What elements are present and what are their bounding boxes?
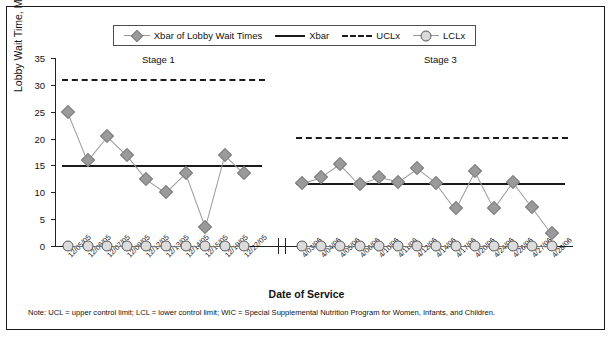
- lcl-point-marker: [450, 241, 461, 252]
- legend-label: LCLx: [443, 30, 465, 41]
- solid-line-icon: [275, 35, 305, 37]
- y-axis-title: Lobby Wait Time, Min: [12, 0, 24, 92]
- legend-label: Xbar of Lobby Wait Times: [154, 30, 262, 41]
- y-tick: [51, 58, 55, 59]
- circle-line-icon: [413, 35, 439, 36]
- y-tick-label: 25: [23, 106, 45, 117]
- lcl-point-marker: [508, 241, 519, 252]
- diamond-line-icon: [124, 35, 150, 36]
- legend-label: UCLx: [376, 30, 400, 41]
- legend-label: Xbar: [309, 30, 329, 41]
- lcl-point-marker: [180, 241, 191, 252]
- y-tick: [51, 219, 55, 220]
- stage3-ucl-line: [296, 137, 568, 139]
- lcl-point-marker: [219, 241, 230, 252]
- lcl-point-marker: [82, 241, 93, 252]
- legend-item-uclx: UCLx: [342, 30, 400, 41]
- dashed-line-icon: [342, 35, 372, 37]
- lcl-point-marker: [121, 241, 132, 252]
- y-tick-label: 20: [23, 133, 45, 144]
- lcl-point-marker: [102, 241, 113, 252]
- chart-page: Xbar of Lobby Wait Times Xbar UCLx LCLx …: [0, 0, 613, 338]
- lcl-point-marker: [297, 241, 308, 252]
- lcl-point-marker: [527, 241, 538, 252]
- stage1-xbar-line: [62, 165, 262, 167]
- lcl-point-marker: [239, 241, 250, 252]
- lcl-point-marker: [316, 241, 327, 252]
- lcl-point-marker: [546, 241, 557, 252]
- y-tick-label: 30: [23, 79, 45, 90]
- lcl-point-marker: [489, 241, 500, 252]
- lcl-point-marker: [393, 241, 404, 252]
- x-axis-title: Date of Service: [0, 288, 613, 300]
- footnote: Note: UCL = upper control limit; LCL = l…: [28, 308, 495, 317]
- stage1-ucl-line: [62, 79, 265, 81]
- chart-legend: Xbar of Lobby Wait Times Xbar UCLx LCLx: [113, 25, 476, 46]
- y-tick: [51, 139, 55, 140]
- lcl-point-marker: [335, 241, 346, 252]
- lcl-point-marker: [373, 241, 384, 252]
- lcl-point-marker: [431, 241, 442, 252]
- legend-item-lclx: LCLx: [413, 30, 465, 41]
- lcl-point-marker: [141, 241, 152, 252]
- lcl-point-marker: [412, 241, 423, 252]
- y-tick: [51, 246, 55, 247]
- y-tick-label: 35: [23, 53, 45, 64]
- y-tick-label: 0: [23, 241, 45, 252]
- y-tick: [51, 192, 55, 193]
- legend-item-xbar-series: Xbar of Lobby Wait Times: [124, 30, 262, 41]
- legend-item-xbar: Xbar: [275, 30, 329, 41]
- y-tick-label: 10: [23, 187, 45, 198]
- lcl-point-marker: [200, 241, 211, 252]
- y-tick-label: 15: [23, 160, 45, 171]
- plot-area: [55, 58, 573, 246]
- lcl-point-marker: [161, 241, 172, 252]
- lcl-point-marker: [469, 241, 480, 252]
- y-tick: [51, 85, 55, 86]
- y-tick: [51, 112, 55, 113]
- y-tick-label: 5: [23, 214, 45, 225]
- lcl-point-marker: [354, 241, 365, 252]
- lcl-point-marker: [63, 241, 74, 252]
- y-tick: [51, 165, 55, 166]
